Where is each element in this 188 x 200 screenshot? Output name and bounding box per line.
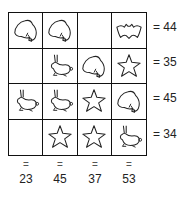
col-equals-4: = [112,158,146,172]
bat-icon [115,16,143,44]
col-equals-3: = [78,158,112,172]
rabbit-icon [46,87,74,115]
col-sum-value-3: 37 [88,172,101,186]
col-equals-1: = [9,158,43,172]
grid-cell [78,120,112,156]
col-sum-4: = 53 [112,158,146,186]
grid-cell [78,13,112,49]
grid-cell [43,13,77,49]
star-icon [115,52,143,80]
grid-cell [43,120,77,156]
frog-icon [12,16,40,44]
frog-icon [80,52,108,80]
col-sum-value-2: 45 [53,172,66,186]
grid-cell [112,120,146,156]
grid-cell [112,49,146,85]
col-sum-1: = 23 [9,158,43,186]
grid-cell [9,13,43,49]
rabbit-icon [115,123,143,151]
puzzle-grid [8,12,147,156]
row-sum-4: = 34 [153,127,177,141]
grid-cell [9,84,43,120]
col-sum-value-1: 23 [19,172,32,186]
row-sum-2: = 35 [153,55,177,69]
star-icon [80,87,108,115]
col-equals-2: = [43,158,77,172]
grid-cell [43,84,77,120]
grid-cell [112,84,146,120]
grid-cell [78,84,112,120]
col-sum-value-4: 53 [122,172,135,186]
col-sum-2: = 45 [43,158,77,186]
frog-icon [115,87,143,115]
grid-cell [43,49,77,85]
star-icon [46,123,74,151]
grid-cell [9,49,43,85]
col-sum-3: = 37 [78,158,112,186]
rabbit-icon [46,52,74,80]
grid-cell [9,120,43,156]
row-sum-1: = 44 [153,20,177,34]
frog-icon [46,16,74,44]
grid-cell [78,49,112,85]
grid-cell [112,13,146,49]
row-sum-3: = 45 [153,91,177,105]
rabbit-icon [12,87,40,115]
star-icon [80,123,108,151]
